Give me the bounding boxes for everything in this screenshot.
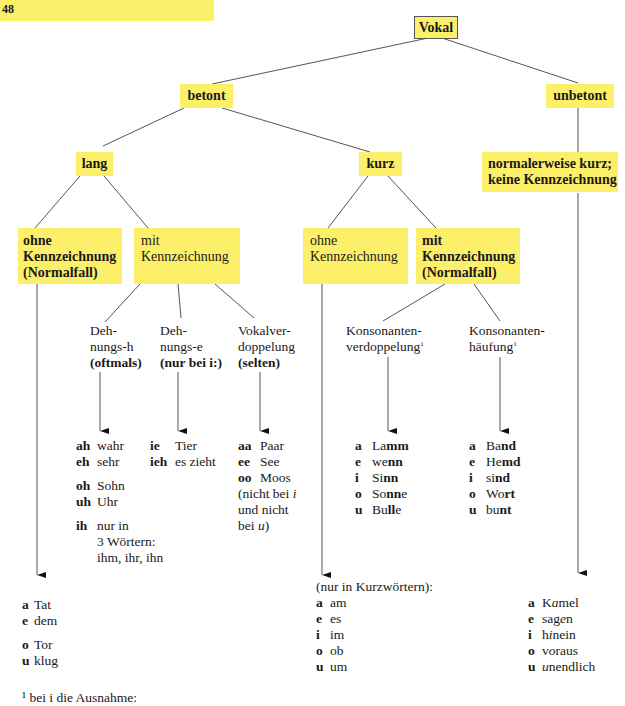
word: Si bbox=[372, 470, 383, 485]
word: ob bbox=[330, 643, 344, 658]
key: i bbox=[316, 627, 330, 643]
node-vokal-label: Vokal bbox=[419, 20, 454, 35]
node-normalerweise-kurz-line1: normalerweise kurz; bbox=[488, 156, 618, 172]
line: mit bbox=[141, 233, 240, 249]
node-kurz-mit-kennzeichnung: mit Kennzeichnung (Normalfall) bbox=[416, 228, 520, 284]
key: a bbox=[316, 595, 330, 611]
footnote-marker: 1 bbox=[513, 340, 517, 348]
word: See bbox=[260, 454, 280, 469]
word: o bbox=[549, 643, 556, 658]
word: K bbox=[542, 595, 552, 610]
word: nd bbox=[501, 438, 516, 454]
word: bu bbox=[486, 502, 500, 517]
node-konsonantenverdopplung: Konsonanten- verdoppelung1 bbox=[346, 323, 424, 355]
word: n bbox=[566, 611, 573, 626]
node-kurz-label: kurz bbox=[367, 156, 395, 171]
key: u bbox=[22, 653, 34, 669]
key: ee bbox=[238, 454, 260, 470]
key: a bbox=[469, 438, 486, 454]
line: ohne bbox=[23, 233, 122, 249]
word: md bbox=[502, 454, 521, 470]
word: v bbox=[542, 643, 549, 658]
node-lang-ohne-kennzeichnung: ohne Kennzeichnung (Normalfall) bbox=[18, 228, 122, 284]
word: a bbox=[552, 595, 559, 610]
line: nungs-h bbox=[90, 339, 142, 355]
key: u bbox=[528, 659, 542, 675]
node-betont-label: betont bbox=[187, 88, 225, 103]
key: ieh bbox=[150, 454, 175, 470]
word: Moos bbox=[260, 470, 291, 485]
word: nendlich bbox=[549, 659, 596, 674]
node-vokal: Vokal bbox=[414, 16, 458, 39]
key: e bbox=[316, 611, 330, 627]
key: oo bbox=[238, 470, 260, 486]
word: si bbox=[486, 470, 495, 485]
line: Konsonanten- bbox=[469, 323, 545, 339]
line: (Normalfall) bbox=[23, 265, 122, 281]
line: Kennzeichnung bbox=[310, 249, 408, 265]
key: ie bbox=[150, 438, 175, 454]
key: o bbox=[355, 486, 372, 502]
key: e bbox=[355, 454, 372, 470]
key: uh bbox=[76, 494, 97, 510]
word: Sohn bbox=[97, 478, 125, 493]
heading: (nur in Kurzwörtern): bbox=[316, 579, 433, 595]
key: a bbox=[528, 595, 542, 611]
word: nn bbox=[383, 470, 398, 486]
key: u bbox=[316, 659, 330, 675]
key: e bbox=[528, 611, 542, 627]
text: (nicht bei bbox=[238, 486, 293, 501]
word: am bbox=[330, 595, 347, 610]
line: Kennzeichnung bbox=[422, 249, 520, 265]
word: raus bbox=[556, 643, 579, 658]
word: h bbox=[542, 627, 549, 642]
key: ah bbox=[76, 438, 97, 454]
note: und nicht bbox=[238, 502, 289, 518]
node-normalerweise-kurz-line2: keine Kennzeichnung bbox=[488, 172, 618, 188]
line: Vokalver- bbox=[238, 323, 295, 339]
word: nn bbox=[388, 454, 403, 470]
word: nt bbox=[500, 502, 512, 518]
line: ohne bbox=[310, 233, 408, 249]
word: u bbox=[542, 659, 549, 674]
word: es bbox=[330, 611, 341, 626]
line: Deh- bbox=[90, 323, 142, 339]
text: bei bbox=[238, 518, 258, 533]
node-unbetont-label: unbetont bbox=[553, 88, 607, 103]
word: we bbox=[372, 454, 388, 469]
key: ih bbox=[76, 518, 97, 534]
key: e bbox=[469, 454, 486, 470]
word: nur in bbox=[97, 518, 129, 533]
line: häufung bbox=[469, 339, 513, 354]
word: rt bbox=[504, 486, 515, 502]
word: nein bbox=[553, 627, 576, 642]
node-lang-mit-kennzeichnung: mit Kennzeichnung bbox=[134, 228, 240, 284]
key: oh bbox=[76, 478, 97, 494]
key: o bbox=[316, 643, 330, 659]
key: i bbox=[469, 470, 486, 486]
word: nn bbox=[386, 486, 401, 502]
word: e bbox=[401, 486, 407, 501]
line: verdoppelung bbox=[346, 339, 420, 354]
text: i bbox=[293, 486, 297, 501]
line: (oftmals) bbox=[90, 355, 142, 371]
line: Deh- bbox=[160, 323, 222, 339]
line: doppelung bbox=[238, 339, 295, 355]
word: es zieht bbox=[175, 454, 216, 469]
key: o bbox=[22, 637, 34, 653]
word: wahr bbox=[97, 438, 124, 453]
footnote-marker: 1 bbox=[420, 340, 424, 348]
key: aa bbox=[238, 438, 260, 454]
word: ihm, ihr, ihn bbox=[97, 550, 163, 566]
line: (selten) bbox=[238, 355, 295, 371]
word: Tat bbox=[34, 597, 51, 612]
word: La bbox=[372, 438, 386, 453]
key: a bbox=[355, 438, 372, 454]
node-unbetont: unbetont bbox=[546, 84, 614, 108]
word: Ba bbox=[486, 438, 501, 453]
word: sag bbox=[542, 611, 560, 626]
word: dem bbox=[34, 613, 57, 628]
key: i bbox=[355, 470, 372, 486]
key: u bbox=[355, 502, 372, 518]
word: Tier bbox=[175, 438, 197, 453]
